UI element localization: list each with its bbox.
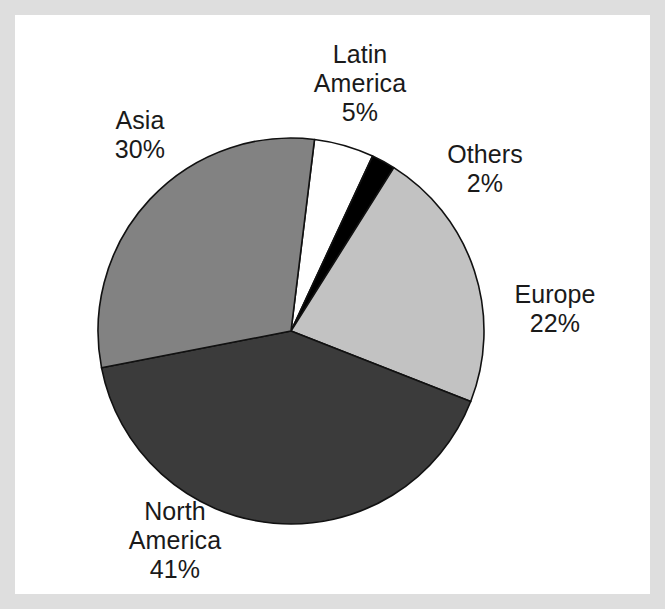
slice-value-latin-america: 5% bbox=[285, 98, 435, 127]
slice-label-asia-line1: Asia bbox=[70, 106, 210, 135]
slice-label-europe: Europe 22% bbox=[485, 280, 625, 338]
slice-label-north-america-line2: America bbox=[100, 526, 250, 555]
slice-label-latin-america-line2: America bbox=[285, 69, 435, 98]
slice-value-europe: 22% bbox=[485, 309, 625, 338]
slice-value-others: 2% bbox=[420, 169, 550, 198]
slice-label-north-america-line1: North bbox=[100, 497, 250, 526]
slice-label-europe-line1: Europe bbox=[485, 280, 625, 309]
pie-slice-asia[interactable] bbox=[98, 138, 315, 368]
slice-label-asia: Asia 30% bbox=[70, 106, 210, 164]
slice-value-asia: 30% bbox=[70, 135, 210, 164]
slice-label-latin-america: Latin America 5% bbox=[285, 40, 435, 127]
slice-label-latin-america-line1: Latin bbox=[285, 40, 435, 69]
chart-figure: Latin America 5% Asia 30% Others 2% Euro… bbox=[0, 0, 665, 609]
slice-label-others-line1: Others bbox=[420, 140, 550, 169]
slice-value-north-america: 41% bbox=[100, 555, 250, 584]
slice-label-others: Others 2% bbox=[420, 140, 550, 198]
slice-label-north-america: North America 41% bbox=[100, 497, 250, 584]
